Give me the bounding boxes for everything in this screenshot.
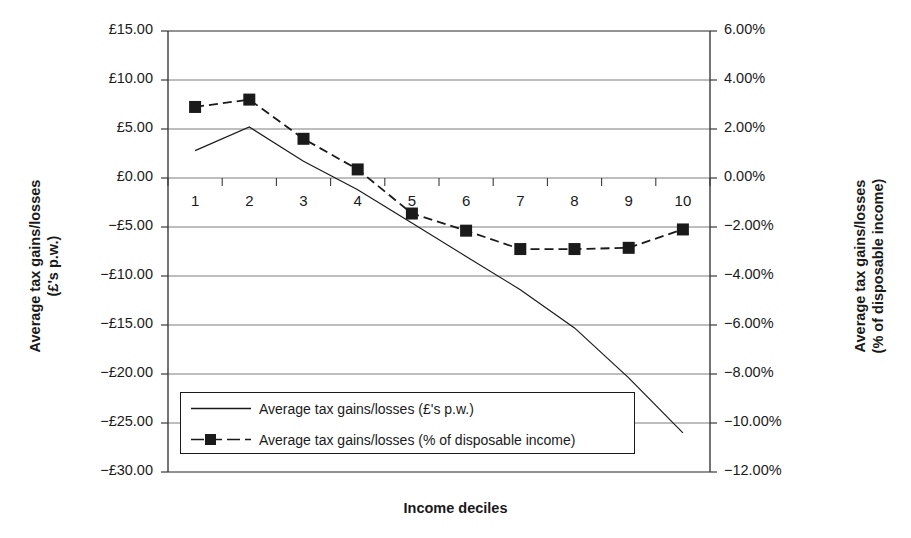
y-axis-left-tick-label: £0.00 (43, 168, 153, 184)
series-marker-square (189, 101, 201, 113)
legend: Average tax gains/losses (£'s p.w.) Aver… (180, 392, 635, 454)
x-axis-category-label: 2 (229, 192, 269, 209)
y-axis-left-tick-label: −£5.00 (43, 217, 153, 233)
legend-item-line-pounds: Average tax gains/losses (£'s p.w.) (181, 393, 634, 424)
x-axis-category-label: 5 (392, 192, 432, 209)
y-axis-right-tick-label: −10.00% (724, 413, 844, 429)
y-axis-right-tick-label: 2.00% (724, 119, 844, 135)
series-marker-square (460, 225, 472, 237)
x-axis-category-label: 4 (338, 192, 378, 209)
x-axis-category-label: 6 (446, 192, 486, 209)
series-line-1 (195, 127, 683, 433)
x-axis-category-label: 8 (555, 192, 595, 209)
y-axis-right-tick-label: 6.00% (724, 21, 844, 37)
x-axis-category-label: 10 (663, 192, 703, 209)
x-axis-category-label: 1 (175, 192, 215, 209)
y-axis-left-tick-label: −£25.00 (43, 413, 153, 429)
legend-item-line-percent: Average tax gains/losses (% of disposabl… (181, 424, 634, 455)
series-marker-square (352, 163, 364, 175)
y-axis-left-tick-label: £10.00 (43, 70, 153, 86)
series-marker-square (298, 133, 310, 145)
y-axis-left-tick-label: −£15.00 (43, 315, 153, 331)
y-axis-right-tick-label: −12.00% (724, 462, 844, 478)
series-marker-square (243, 94, 255, 106)
series-marker-square (623, 242, 635, 254)
y-axis-right-tick-label: −8.00% (724, 364, 844, 380)
y-axis-right-tick-label: 4.00% (724, 70, 844, 86)
series-marker-square (677, 223, 689, 235)
y-axis-right-tick-label: −4.00% (724, 266, 844, 282)
y-axis-left-tick-label: −£30.00 (43, 462, 153, 478)
series-marker-square (406, 208, 418, 220)
y-axis-right-tick-label: 0.00% (724, 168, 844, 184)
y-axis-left-tick-label: £15.00 (43, 21, 153, 37)
chart-figure: Average tax gains/losses (£'s p.w.) Aver… (0, 0, 911, 538)
x-axis-category-label: 9 (609, 192, 649, 209)
series-marker-square (569, 243, 581, 255)
x-axis-category-label: 3 (284, 192, 324, 209)
series-marker-square (514, 243, 526, 255)
legend-label-percent: Average tax gains/losses (% of disposabl… (259, 432, 575, 448)
y-axis-left-tick-label: −£20.00 (43, 364, 153, 380)
legend-key-dashed-square-line (189, 424, 253, 455)
x-axis-category-label: 7 (500, 192, 540, 209)
y-axis-left-tick-label: £5.00 (43, 119, 153, 135)
legend-label-pounds: Average tax gains/losses (£'s p.w.) (259, 401, 474, 417)
y-axis-left-tick-label: −£10.00 (43, 266, 153, 282)
y-axis-right-tick-label: −6.00% (724, 315, 844, 331)
legend-key-solid-line (189, 393, 253, 424)
y-axis-right-tick-label: −2.00% (724, 217, 844, 233)
